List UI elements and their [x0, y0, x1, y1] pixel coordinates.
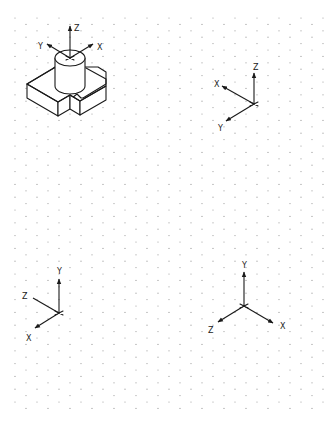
t1-x-axis — [222, 86, 254, 104]
isometric-part: Z Y X — [27, 24, 106, 116]
part-y-label: Y — [37, 42, 43, 51]
t1-y-axis — [226, 104, 254, 121]
part-x-label: X — [97, 43, 103, 52]
t2-z-label: Z — [22, 292, 28, 301]
t3-x-axis — [244, 306, 273, 323]
t3-z-label: Z — [208, 326, 214, 335]
t3-y-label: Y — [241, 261, 247, 270]
isometric-diagram: Z Y X Z X Y Y Z X Y Z X — [0, 0, 333, 440]
t1-y-label: Y — [217, 124, 223, 133]
t2-y-label: Y — [56, 267, 62, 276]
axis-triad-top-right: Z X Y — [214, 63, 259, 133]
part-z-label: Z — [74, 24, 80, 33]
axis-triad-bottom-left: Y Z X — [22, 267, 63, 343]
t3-x-label: X — [280, 322, 286, 331]
axis-triad-bottom-right: Y Z X — [208, 261, 286, 335]
t1-x-label: X — [214, 80, 220, 89]
t2-x-label: X — [26, 334, 32, 343]
t1-z-label: Z — [253, 63, 259, 72]
